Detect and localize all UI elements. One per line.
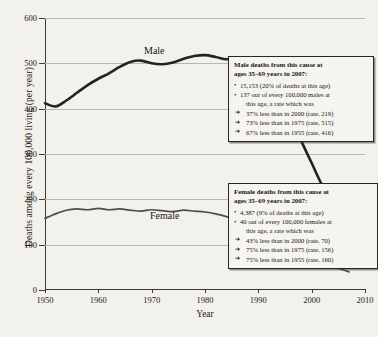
- annotation-female-bullet-2-line1: 40 out of every 100,000 females at: [240, 218, 332, 225]
- annotation-male-arrow-2: 73% less than in 1975 (rate, 515): [234, 118, 368, 127]
- annotation-male-arrow-1: 37% less than in 2000 (rate, 219): [234, 109, 368, 118]
- annotation-female-arrow-2: 75% less than in 1975 (rate, 156): [234, 245, 372, 254]
- x-tick-label: 1990: [250, 296, 267, 305]
- annotation-male-arrow-3: 67% less than in 1955 (rate, 416): [234, 128, 368, 137]
- series-label-male: Male: [144, 45, 165, 56]
- annotation-male-bullet-2-line1: 137 out of every 100,000 males at: [240, 91, 330, 98]
- annotation-female-bullet-2-line2: this age, a rate which was: [240, 226, 372, 235]
- x-axis-title: Year: [45, 309, 365, 319]
- annotation-female-arrow-3: 75% less than in 1955 (rate, 160): [234, 255, 372, 264]
- annotation-male-heading: Male deaths from this cause at ages 35–6…: [234, 60, 368, 79]
- annotation-female-heading-line2: ages 35–69 years in 2007:: [234, 197, 307, 204]
- annotation-box-male: Male deaths from this cause at ages 35–6…: [228, 56, 374, 142]
- annotation-male-heading-line1: Male deaths from this cause at: [234, 61, 322, 68]
- annotation-male-bullet-2: 137 out of every 100,000 males at this a…: [234, 90, 368, 109]
- x-tick-label: 1950: [37, 296, 54, 305]
- x-tick: [365, 289, 366, 293]
- annotation-male-list: 15,153 (20% of deaths at this age) 137 o…: [234, 81, 368, 137]
- annotation-female-bullet-2: 40 out of every 100,000 females at this …: [234, 217, 372, 236]
- y-tick-label: 100: [24, 240, 37, 249]
- annotation-female-bullet-1: 4,387 (9% of deaths at this age): [234, 208, 372, 217]
- y-tick-label: 300: [24, 150, 37, 159]
- annotation-box-female: Female deaths from this cause at ages 35…: [228, 183, 378, 269]
- x-tick-label: 2000: [303, 296, 320, 305]
- annotation-female-arrow-1: 43% less than in 2000 (rate, 70): [234, 236, 372, 245]
- series-label-female: Female: [150, 210, 179, 221]
- annotation-female-heading: Female deaths from this cause at ages 35…: [234, 187, 372, 206]
- x-tick-label: 1960: [90, 296, 107, 305]
- y-tick-label: 600: [24, 14, 37, 23]
- y-tick-label: 0: [33, 286, 37, 295]
- y-tick-label: 500: [24, 59, 37, 68]
- annotation-male-heading-line2: ages 35–69 years in 2007:: [234, 70, 307, 77]
- annotation-female-list: 4,387 (9% of deaths at this age) 40 out …: [234, 208, 372, 264]
- y-tick-label: 400: [24, 104, 37, 113]
- y-tick-label: 200: [24, 195, 37, 204]
- annotation-female-heading-line1: Female deaths from this cause at: [234, 188, 329, 195]
- annotation-male-bullet-1: 15,153 (20% of deaths at this age): [234, 81, 368, 90]
- x-tick-label: 2010: [357, 296, 374, 305]
- x-tick-label: 1970: [143, 296, 160, 305]
- x-tick-label: 1980: [197, 296, 214, 305]
- annotation-male-bullet-2-line2: this age, a rate which was: [240, 99, 368, 108]
